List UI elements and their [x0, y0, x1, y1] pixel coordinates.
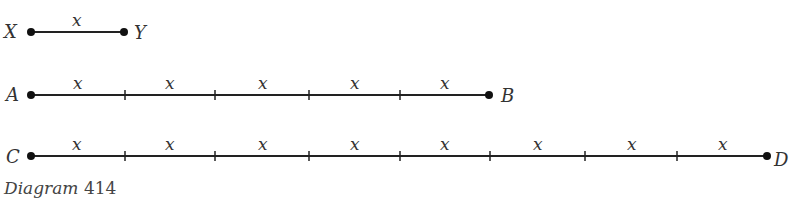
- segment-label: x: [533, 134, 543, 154]
- segment-label: x: [258, 134, 268, 154]
- endpoint-a: [27, 91, 35, 99]
- segment-label: x: [73, 73, 83, 93]
- endpoint-d: [763, 152, 771, 160]
- endpoint-y: [120, 28, 128, 36]
- segment-label: x: [165, 134, 175, 154]
- row-cd: C D x x x x x x x x: [6, 134, 789, 170]
- point-label-y: Y: [134, 22, 148, 43]
- segment-label: x: [350, 134, 360, 154]
- point-label-c: C: [6, 146, 20, 167]
- segment-label: x: [627, 134, 637, 154]
- segment-label: x: [440, 134, 450, 154]
- segment-label: x: [258, 73, 268, 93]
- point-label-b: B: [500, 85, 514, 106]
- row-ab: A B x x x x x: [4, 73, 514, 106]
- point-label-a: A: [4, 84, 19, 105]
- endpoint-b: [485, 91, 493, 99]
- caption-number: 414: [84, 178, 116, 198]
- segment-label: x: [350, 73, 360, 93]
- segment-label: x: [72, 134, 82, 154]
- diagram-caption: Diagram 414: [4, 178, 116, 198]
- point-label-x: X: [2, 21, 18, 42]
- caption-word: Diagram: [4, 178, 78, 198]
- segment-label: x: [72, 10, 82, 30]
- row-xy: X Y x: [2, 10, 148, 43]
- endpoint-c: [27, 152, 35, 160]
- segment-label: x: [165, 73, 175, 93]
- segment-label: x: [718, 134, 728, 154]
- segment-diagram: X Y x A B x x x x x C D: [0, 0, 791, 203]
- endpoint-x: [27, 28, 35, 36]
- segment-label: x: [440, 73, 450, 93]
- point-label-d: D: [773, 149, 789, 170]
